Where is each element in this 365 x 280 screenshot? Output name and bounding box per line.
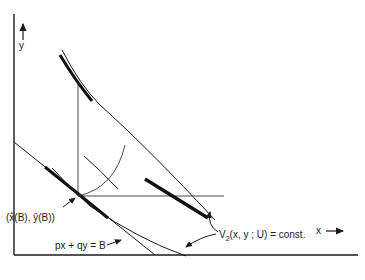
indifference-curve-label: V2(x, y ; U) = const. (219, 229, 305, 242)
tangency-arrow-icon (63, 198, 75, 207)
indifference-curve-arrow-lower-icon (186, 234, 216, 247)
tangency-point-label: (x̂(B), ŷ(B)) (6, 212, 55, 223)
economics-diagram: y x (x̂(B), ŷ(B)) px + qy = B V2(x, y ; … (0, 0, 365, 280)
indifference-curve-middle (84, 156, 118, 189)
x-axis-label: x (316, 225, 321, 236)
y-axis-label: y (19, 40, 24, 51)
x-axis-label-group: x (316, 225, 343, 236)
y-axis-label-group: y (19, 24, 24, 51)
axes (14, 14, 358, 255)
indifference-curve-upper-bold-2 (145, 179, 208, 218)
budget-line-arrow-icon (107, 240, 121, 245)
label-rest: (x, y ; U) = const. (230, 229, 306, 240)
budget-line-label: px + qy = B (55, 240, 106, 251)
indifference-curve-upper-bold-1 (60, 55, 92, 101)
svg-text:V2(x, y ; U) = const.: V2(x, y ; U) = const. (219, 229, 305, 242)
budget-line-bold-segment (45, 167, 108, 218)
